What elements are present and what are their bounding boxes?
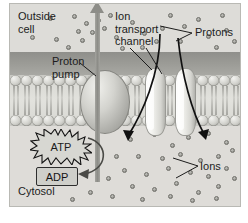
protons-leader-1 [160, 26, 192, 33]
diagram-canvas: ATP ADP Outside cell Ion transport chann… [9, 3, 241, 207]
atp-label: ATP [30, 129, 92, 165]
channel-influx-arrowhead-left [123, 130, 134, 141]
channel-influx-path-left [128, 34, 160, 136]
label-protons: Protons [195, 26, 233, 39]
figure-caption-sliver [11, 208, 239, 220]
adp-box: ADP [36, 167, 78, 186]
label-outside-cell: Outside cell [18, 10, 56, 35]
ions-leader-2 [176, 166, 198, 178]
channel-influx-arrowhead-right [198, 129, 209, 140]
label-ion-transport-channel: Ion transport channel [115, 10, 158, 48]
label-ions: Ions [200, 160, 221, 173]
label-proton-pump: Proton pump [52, 55, 84, 80]
atp-burst: ATP [30, 129, 92, 165]
membrane-transport-figure: ATP ADP Outside cell Ion transport chann… [0, 0, 248, 223]
label-cytosol: Cytosol [18, 185, 55, 198]
atp-to-adp-arrowhead [78, 169, 89, 179]
protons-leader-2 [176, 33, 192, 41]
channel-influx-path-right [178, 38, 204, 134]
channel-leader-1 [130, 48, 152, 70]
ions-leader-1 [173, 158, 198, 166]
